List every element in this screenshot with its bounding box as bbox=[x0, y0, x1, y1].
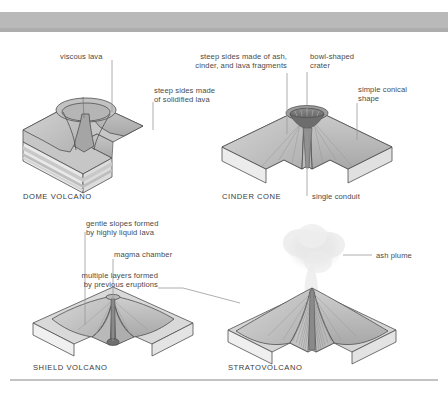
label-line-1: multiple layers formed bbox=[82, 271, 158, 280]
caption-cinder-cone: CINDER CONE bbox=[222, 192, 281, 201]
label-line-2: by previous eruptions bbox=[84, 280, 158, 289]
label-multiple-layers: multiple layers formedby previous erupti… bbox=[38, 271, 158, 290]
label-line-1: bowl-shaped bbox=[310, 52, 354, 61]
label-ash-plume: ash plume bbox=[376, 251, 412, 260]
ash-plume-cloud bbox=[283, 224, 345, 291]
label-viscous-lava: viscous lava bbox=[60, 52, 103, 61]
label-line-2: by highly liquid lava bbox=[86, 228, 154, 237]
label-line-2: cinder, and lava fragments bbox=[195, 61, 287, 70]
label-line-1: steep sides made of ash, bbox=[200, 52, 287, 61]
label-single-conduit: single conduit bbox=[312, 192, 360, 201]
strato-conduit bbox=[309, 290, 315, 350]
stratovolcano-figure bbox=[228, 224, 396, 364]
label-steep-sides-ash: steep sides made of ash,cinder, and lava… bbox=[167, 52, 287, 71]
caption-dome-volcano: DOME VOLCANO bbox=[23, 192, 92, 201]
label-line-1: steep sides made bbox=[154, 86, 215, 95]
dome-volcano-figure bbox=[23, 98, 143, 193]
label-line-2: shape bbox=[358, 94, 379, 103]
leader-multiple-layers bbox=[158, 288, 240, 303]
label-line-2: crater bbox=[310, 61, 330, 70]
figure-page: viscous lava steep sides madeof solidifi… bbox=[0, 0, 448, 393]
label-bowl-shaped-crater: bowl-shapedcrater bbox=[310, 52, 354, 71]
label-magma-chamber: magma chamber bbox=[114, 250, 172, 259]
label-simple-conical-shape: simple conicalshape bbox=[358, 85, 407, 104]
label-line-2: of solidified lava bbox=[154, 95, 210, 104]
label-line-1: simple conical bbox=[358, 85, 407, 94]
caption-stratovolcano: STRATOVOLCANO bbox=[228, 363, 302, 372]
label-steep-sides-solidified: steep sides madeof solidified lava bbox=[154, 86, 215, 105]
caption-shield-volcano: SHIELD VOLCANO bbox=[33, 363, 107, 372]
label-line-1: gentle slopes formed bbox=[86, 219, 159, 228]
label-gentle-slopes: gentle slopes formedby highly liquid lav… bbox=[86, 219, 159, 238]
